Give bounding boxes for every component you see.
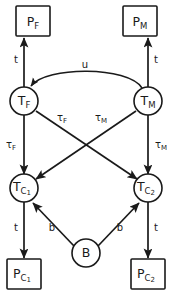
edge-label-B-TC1: b xyxy=(49,222,55,233)
edge-label-TC1-PC1: t xyxy=(14,222,18,233)
edge-label-TF-TC2: τF xyxy=(57,112,67,125)
node-B-label: B xyxy=(82,245,91,260)
edge-label-TM-TC1: τM xyxy=(95,112,107,125)
edge-label-TM-TC2: τM xyxy=(155,139,167,152)
edge-label-TC2-PC2: t xyxy=(154,222,158,233)
edge-label-TM-PM: t xyxy=(154,54,158,65)
edge-label-TM-TF: u xyxy=(82,59,88,70)
flow-diagram: PF PM TF TM TC1 TC2 B PC1 PC2 t t u τF τ… xyxy=(0,0,172,295)
edge-label-B-TC2: b xyxy=(117,222,123,233)
diagram-canvas: PF PM TF TM TC1 TC2 B PC1 PC2 t t u τF τ… xyxy=(0,0,172,295)
edge-label-TF-PF: t xyxy=(14,54,18,65)
edge-TM-TF-curve xyxy=(31,71,142,88)
edge-label-TF-TC1: τF xyxy=(6,139,16,152)
